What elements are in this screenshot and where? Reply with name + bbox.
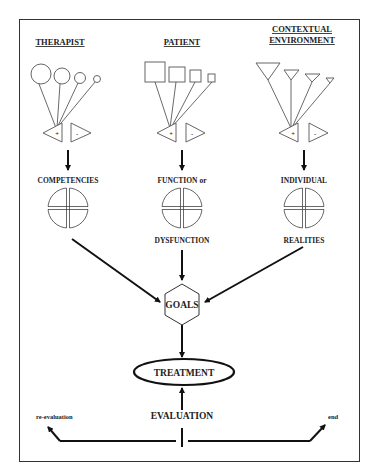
quartered-circle-environment-icon — [283, 187, 325, 229]
goals-hexagon: GOALS — [165, 284, 199, 325]
svg-text:+: + — [55, 130, 59, 137]
svg-text:-: - — [191, 130, 193, 137]
therapist-circles-icon: + - — [31, 64, 101, 142]
heading-therapist: THERAPIST — [35, 37, 84, 47]
diagram-canvas: THERAPIST PATIENT CONTEXTUAL ENVIRONMENT… — [0, 0, 373, 467]
svg-text:+: + — [169, 130, 173, 137]
arrow-realities-to-goals — [205, 247, 303, 302]
label-reevaluation: re-evaluation — [36, 413, 73, 420]
label-end: end — [328, 413, 339, 420]
svg-text:+: + — [291, 130, 295, 137]
treatment-ellipse: TREATMENT — [134, 359, 234, 385]
arrow-to-reevaluation — [48, 427, 60, 441]
arrow-to-end — [310, 425, 325, 441]
svg-text:-: - — [76, 130, 78, 137]
environment-triangles-icon: + - — [256, 63, 334, 142]
label-competencies: COMPETENCIES — [38, 176, 99, 185]
svg-text:GOALS: GOALS — [165, 300, 198, 310]
svg-text:TREATMENT: TREATMENT — [154, 368, 215, 378]
heading-patient: PATIENT — [164, 37, 201, 47]
label-function-or: FUNCTION or — [158, 176, 208, 185]
quartered-circle-therapist-icon — [47, 187, 89, 229]
label-realities: REALITIES — [284, 236, 325, 245]
label-dysfunction: DYSFUNCTION — [154, 236, 210, 245]
patient-squares-icon: + - — [145, 62, 215, 142]
heading-environment: ENVIRONMENT — [269, 35, 335, 45]
svg-text:-: - — [314, 130, 316, 137]
quartered-circle-patient-icon — [161, 187, 203, 229]
label-evaluation: EVALUATION — [151, 411, 214, 421]
arrow-competencies-to-goals — [72, 239, 160, 302]
label-individual: INDIVIDUAL — [281, 176, 327, 185]
heading-contextual: CONTEXTUAL — [272, 24, 332, 34]
